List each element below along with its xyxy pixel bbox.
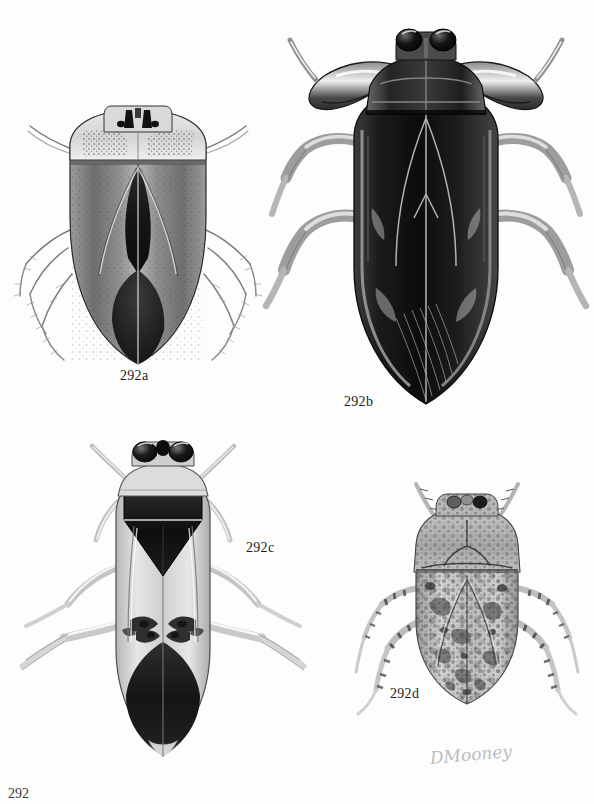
vertex-spot-292c (156, 440, 170, 456)
figure-label-292a: 292a (120, 368, 148, 384)
specimen-figure-292a (8, 98, 268, 373)
eye-left-292b (396, 29, 422, 51)
specimen-figure-292d (352, 480, 582, 715)
legs-left-292b (266, 136, 354, 306)
eye-left-292c (133, 442, 157, 462)
figure-label-292d: 292d (390, 686, 419, 702)
eye-left-292d (447, 496, 461, 508)
legs-right-292a (202, 126, 256, 360)
legs-left-292a (20, 126, 74, 360)
figure-label-292b: 292b (344, 394, 373, 410)
leg-bristles-right-292a (213, 256, 262, 354)
artist-signature: DMooney (429, 741, 513, 768)
leg-bristles-left-292a (14, 256, 63, 354)
eye-right-292b (430, 29, 456, 51)
figure-label-292c: 292c (246, 540, 274, 556)
pronotum-292c (118, 464, 208, 496)
eye-right-292d (473, 496, 487, 508)
eye-right-292c (169, 442, 193, 462)
specimen-figure-292c (18, 434, 308, 764)
illustration-plate: 292a 292b 292c 292d DMooney 292 (0, 0, 594, 804)
legs-right-292b (498, 136, 586, 306)
page-number: 292 (8, 786, 29, 802)
specimen-figure-292b (276, 18, 576, 408)
